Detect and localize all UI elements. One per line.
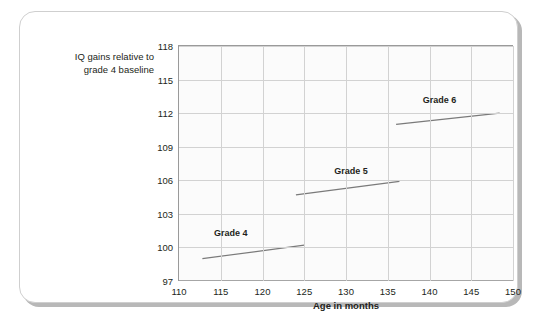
y-axis-tick-label: 106 [157,175,173,186]
series-line [296,181,400,194]
x-axis-tick-label: 125 [296,286,312,297]
gridline-vertical [471,46,472,281]
x-axis-tick-label: 110 [171,286,186,297]
series-line [396,113,500,124]
x-axis-tick-label: 140 [422,286,438,297]
y-axis-tick-label: 118 [158,41,173,52]
x-axis-tick-label: 130 [338,286,354,297]
plot-inner: 9710010310610911211511811011512012513013… [179,46,513,281]
gridline-vertical [346,46,347,281]
y-axis-tick-label: 97 [162,276,173,287]
gridline-vertical [513,46,514,281]
y-axis-title-line-2: grade 4 baseline [50,63,154,76]
series-label: Grade 5 [334,166,368,176]
y-axis-tick-label: 103 [157,208,173,219]
x-axis-tick-label: 145 [463,286,479,297]
x-axis-tick-label: 150 [505,286,521,297]
x-axis-tick-label: 120 [255,286,271,297]
x-axis-tick-label: 115 [213,286,228,297]
y-axis-tick-label: 109 [157,141,173,152]
gridline-vertical [263,46,264,281]
y-axis-title: IQ gains relative to grade 4 baseline [50,50,154,76]
figure-card: IQ gains relative to grade 4 baseline 97… [19,11,518,303]
gridline-vertical [388,46,389,281]
gridline-vertical [304,46,305,281]
y-axis-tick-label: 115 [158,74,173,85]
figure-root: IQ gains relative to grade 4 baseline 97… [0,0,542,322]
series-label: Grade 4 [214,228,248,238]
y-axis-tick-label: 112 [158,108,173,119]
series-label: Grade 6 [423,95,457,105]
y-axis-tick-label: 100 [157,242,173,253]
gridline-vertical [430,46,431,281]
x-axis-tick-label: 135 [380,286,396,297]
y-axis-title-line-1: IQ gains relative to [50,50,154,63]
gridline-vertical [221,46,222,281]
plot-area: 9710010310610911211511811011512012513013… [178,45,513,281]
x-axis-title: Age in months [313,300,379,311]
